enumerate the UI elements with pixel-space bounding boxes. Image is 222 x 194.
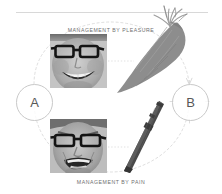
stick-body bbox=[124, 101, 164, 173]
carrot-body bbox=[117, 23, 185, 93]
node-b-label: B bbox=[186, 96, 195, 110]
node-a[interactable]: A bbox=[16, 84, 53, 121]
carrot-and-stick-diagram: MANAGEMENT BY PLEASURE bbox=[0, 0, 222, 194]
caption-management-by-pleasure: MANAGEMENT BY PLEASURE bbox=[0, 27, 222, 33]
smiling-face-photo bbox=[50, 34, 107, 88]
horizontal-rule bbox=[16, 12, 208, 13]
carrot-leaves bbox=[154, 6, 187, 26]
angry-face-photo bbox=[50, 119, 107, 173]
node-b[interactable]: B bbox=[172, 84, 209, 121]
node-a-label: A bbox=[30, 96, 39, 110]
caption-management-by-pain: MANAGEMENT BY PAIN bbox=[0, 179, 222, 185]
